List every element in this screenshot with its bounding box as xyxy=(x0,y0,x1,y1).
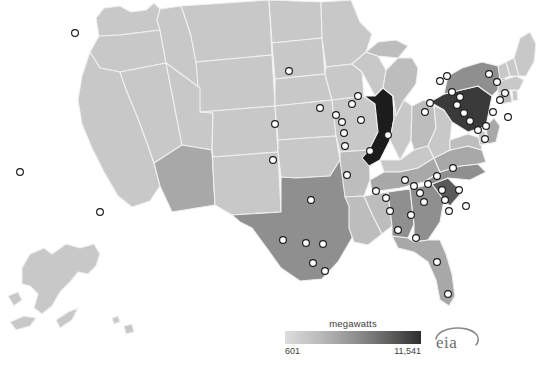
plant-marker xyxy=(339,119,346,126)
plant-marker xyxy=(494,79,501,86)
plant-marker xyxy=(425,181,432,188)
map-legend: megawatts 601 11,541 xyxy=(285,318,421,364)
state-SD xyxy=(272,38,325,79)
plant-marker xyxy=(490,109,497,116)
plant-marker xyxy=(355,93,362,100)
plant-marker xyxy=(272,121,279,128)
plant-marker xyxy=(483,123,490,130)
plant-marker xyxy=(402,177,409,184)
plant-marker xyxy=(349,101,356,108)
plant-marker xyxy=(413,235,420,242)
plant-marker xyxy=(497,97,504,104)
plant-marker xyxy=(422,109,429,116)
plant-marker xyxy=(310,260,317,267)
state-WY xyxy=(196,55,275,112)
plant-marker xyxy=(463,203,470,210)
plant-marker xyxy=(317,105,324,112)
plant-marker xyxy=(461,110,468,117)
plant-marker xyxy=(502,90,509,97)
plant-marker xyxy=(456,187,463,194)
plant-marker xyxy=(344,172,351,179)
plant-marker xyxy=(486,71,493,78)
plant-marker xyxy=(450,165,457,172)
state-MT xyxy=(181,0,272,62)
plant-marker xyxy=(446,208,453,215)
plant-marker xyxy=(427,100,434,107)
plant-marker xyxy=(367,148,374,155)
eia-logo: eia xyxy=(432,322,484,356)
plant-marker xyxy=(333,112,340,119)
plant-marker xyxy=(395,227,402,234)
legend-max-label: 11,541 xyxy=(394,346,421,356)
state-ND xyxy=(269,0,322,43)
plant-marker xyxy=(411,183,418,190)
plant-marker xyxy=(387,208,394,215)
plant-marker xyxy=(408,212,415,219)
legend-gradient-bar xyxy=(285,331,421,344)
plant-marker xyxy=(342,143,349,150)
legend-min-label: 601 xyxy=(285,346,300,356)
plant-marker xyxy=(72,30,79,37)
plant-marker xyxy=(417,190,424,197)
plant-marker xyxy=(439,187,446,194)
state-KS xyxy=(275,100,336,140)
plant-marker xyxy=(308,197,315,204)
plant-marker xyxy=(449,89,456,96)
plant-marker xyxy=(437,78,444,85)
plant-marker xyxy=(444,73,451,80)
plant-marker xyxy=(482,136,489,143)
plant-marker xyxy=(385,132,392,139)
choropleth-map: .st{stroke:#f0f0f0;stroke-width:1.1;stro… xyxy=(0,0,536,372)
plant-marker xyxy=(421,199,428,206)
plant-marker xyxy=(383,195,390,202)
plant-marker xyxy=(467,118,474,125)
plant-marker xyxy=(475,127,482,134)
plant-marker xyxy=(434,259,441,266)
plant-marker xyxy=(97,209,104,216)
plant-marker xyxy=(442,197,449,204)
plant-marker xyxy=(303,240,310,247)
plant-marker xyxy=(445,291,452,298)
plant-marker xyxy=(322,268,329,275)
plant-marker xyxy=(434,173,441,180)
plant-marker xyxy=(505,114,512,121)
plant-marker xyxy=(341,130,348,137)
plant-marker xyxy=(373,188,380,195)
plant-marker xyxy=(320,241,327,248)
plant-marker xyxy=(286,68,293,75)
plant-marker xyxy=(454,102,461,109)
eia-logo-text: eia xyxy=(436,333,457,352)
plant-marker xyxy=(358,117,365,124)
state-RI xyxy=(512,90,518,101)
plant-marker xyxy=(17,169,24,176)
us-nuclear-capacity-map-figure: .st{stroke:#f0f0f0;stroke-width:1.1;stro… xyxy=(0,0,536,372)
plant-marker xyxy=(270,157,277,164)
plant-marker xyxy=(457,94,464,101)
plant-marker xyxy=(280,237,287,244)
state-OK xyxy=(278,136,340,178)
legend-title: megawatts xyxy=(285,318,421,329)
